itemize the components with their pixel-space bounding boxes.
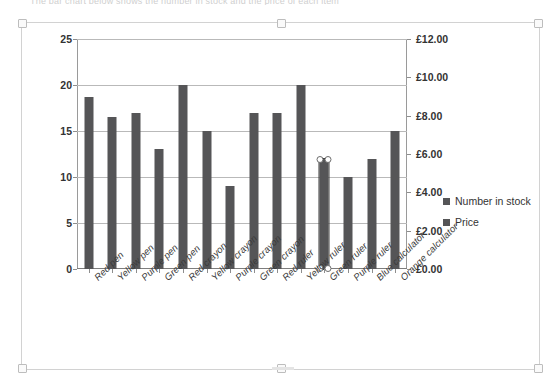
resize-handle-bottom-right[interactable]	[534, 364, 543, 373]
legend-swatch-icon	[443, 198, 450, 205]
y-axis-right-tick-mark	[407, 77, 411, 78]
bar-slot[interactable]	[218, 39, 242, 269]
y-axis-left-tick-label: 15	[60, 125, 72, 137]
plot-area[interactable]: 0510152025 £0.00£2.00£4.00£6.00£8.00£10.…	[77, 39, 407, 269]
y-axis-right-tick-mark	[407, 39, 411, 40]
bar[interactable]	[108, 117, 117, 269]
bar-slot[interactable]	[195, 39, 219, 269]
x-axis-category-labels: Red penYellow penPurple penGreen penRed …	[77, 269, 407, 369]
legend-swatch-icon	[443, 219, 450, 226]
resize-handle-top-center[interactable]	[277, 19, 286, 28]
bar-slot[interactable]	[148, 39, 172, 269]
bar-slot[interactable]	[289, 39, 313, 269]
y-axis-right-tick-mark	[407, 192, 411, 193]
legend-label: Price	[455, 216, 479, 228]
y-axis-right-tick-label: £12.00	[416, 33, 448, 45]
bar-slot[interactable]	[313, 39, 337, 269]
y-axis-left-tick-label: 10	[60, 171, 72, 183]
bar-resize-handle[interactable]	[325, 156, 332, 163]
legend-label: Number in stock	[455, 195, 531, 207]
legend-item[interactable]: Number in stock	[443, 195, 553, 207]
cut-off-heading: The bar chart below shows the number in …	[30, 0, 360, 5]
bar-resize-handle[interactable]	[317, 156, 324, 163]
bar-slot[interactable]	[171, 39, 195, 269]
y-axis-right-tick-label: £8.00	[416, 110, 442, 122]
bar[interactable]	[202, 131, 211, 269]
legend-item[interactable]: Price	[443, 216, 553, 228]
resize-handle-top-right[interactable]	[534, 19, 543, 28]
bar-slot[interactable]	[336, 39, 360, 269]
resize-handle-bottom-left[interactable]	[18, 364, 27, 373]
plot: 0510152025 £0.00£2.00£4.00£6.00£8.00£10.…	[51, 39, 413, 291]
y-axis-right-tick-mark	[407, 154, 411, 155]
y-axis-left-tick-label: 5	[66, 217, 72, 229]
legend[interactable]: Number in stockPrice	[443, 195, 553, 237]
bar-slot[interactable]	[360, 39, 384, 269]
bar[interactable]	[84, 97, 93, 269]
y-axis-right-tick-mark	[407, 116, 411, 117]
chart-frame[interactable]: 0510152025 £0.00£2.00£4.00£6.00£8.00£10.…	[21, 22, 540, 370]
bar[interactable]	[131, 113, 140, 269]
bar-slot[interactable]	[101, 39, 125, 269]
y-axis-right-tick-label: £10.00	[416, 71, 448, 83]
y-axis-right-tick-mark	[407, 231, 411, 232]
bar-slot[interactable]	[383, 39, 407, 269]
bar-series-number-in-stock[interactable]	[77, 39, 407, 269]
y-axis-left-tick-label: 20	[60, 79, 72, 91]
bar-slot[interactable]	[124, 39, 148, 269]
resize-handle-top-left[interactable]	[18, 19, 27, 28]
frame-bottom-marker	[272, 367, 294, 370]
y-axis-right-tick-label: £6.00	[416, 148, 442, 160]
y-axis-right-tick-label: £4.00	[416, 186, 442, 198]
bar-slot[interactable]	[77, 39, 101, 269]
bar[interactable]	[179, 85, 188, 269]
y-axis-left-tick-label: 0	[66, 263, 72, 275]
y-axis-left-tick-label: 25	[60, 33, 72, 45]
